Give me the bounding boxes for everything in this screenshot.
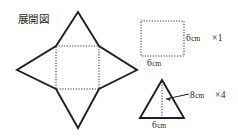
net-inner-square bbox=[56, 46, 99, 89]
triangle-base-unit: cm bbox=[157, 121, 166, 130]
part-square-outline bbox=[141, 21, 184, 56]
square-base-dimension: 6cm bbox=[147, 59, 161, 69]
net-title: 展開図 bbox=[18, 14, 49, 25]
part-square bbox=[141, 21, 184, 56]
triangle-height-dimension: 8cm bbox=[190, 91, 204, 101]
square-count: ×1 bbox=[212, 34, 223, 44]
part-triangle-height-arrowhead bbox=[166, 97, 171, 101]
triangle-height-unit: cm bbox=[195, 91, 204, 100]
triangle-base-dimension: 6cm bbox=[152, 121, 166, 131]
net-star-outline bbox=[17, 12, 137, 128]
part-triangle bbox=[140, 80, 189, 118]
square-base-unit: cm bbox=[152, 59, 161, 68]
triangle-count: ×4 bbox=[215, 91, 226, 101]
geometry-figure: 展開図 6cm 6cm ×1 8cm 6cm ×4 bbox=[0, 0, 238, 138]
net-outer-star-path bbox=[17, 12, 137, 128]
square-side-unit: cm bbox=[191, 34, 200, 43]
net-inner-square-path bbox=[56, 46, 99, 89]
square-side-dimension: 6cm bbox=[186, 34, 200, 44]
